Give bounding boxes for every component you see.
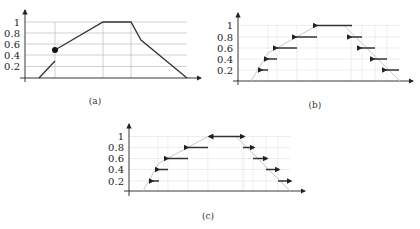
chart-a: 1 0.8 0.6 0.4 0.2 (a): [4, 10, 201, 106]
chart-c-grid: [129, 136, 290, 191]
chart-b-grid: [238, 25, 400, 81]
caption-c: (c): [202, 211, 214, 221]
chart-b: 1 0.8 0.6 0.4 0.2 (b): [217, 13, 413, 110]
figure: 1 0.8 0.6 0.4 0.2 (a): [0, 0, 420, 229]
y-tick-0.4: 0.4: [108, 164, 124, 175]
y-tick-0.2: 0.2: [108, 176, 124, 187]
y-tick-1: 1: [227, 20, 233, 31]
caption-b: (b): [309, 100, 322, 110]
y-tick-0.4: 0.4: [217, 54, 233, 65]
chart-a-axes: [20, 10, 201, 82]
chart-c-yticks: 1 0.8 0.6 0.4 0.2: [108, 131, 124, 187]
y-tick-0.6: 0.6: [108, 153, 124, 164]
chart-a-yticks: 1 0.8 0.6 0.4 0.2: [4, 17, 20, 73]
chart-b-trapezoid: [251, 26, 400, 82]
y-tick-0.2: 0.2: [217, 65, 233, 76]
y-tick-1: 1: [14, 17, 20, 28]
y-tick-0.4: 0.4: [4, 50, 20, 61]
y-tick-0.6: 0.6: [217, 43, 233, 54]
chart-b-yticks: 1 0.8 0.6 0.4 0.2: [217, 20, 233, 76]
y-tick-0.8: 0.8: [108, 142, 124, 153]
chart-c: 1 0.8 0.6 0.4 0.2 (c): [108, 124, 305, 221]
y-tick-0.8: 0.8: [4, 28, 20, 39]
chart-c-trapezoid: [143, 137, 290, 192]
y-tick-1: 1: [118, 131, 124, 142]
y-tick-0.6: 0.6: [4, 39, 20, 50]
y-tick-0.8: 0.8: [217, 32, 233, 43]
y-tick-0.2: 0.2: [4, 61, 20, 72]
caption-a: (a): [89, 96, 101, 106]
jump-point-dot: [52, 47, 58, 53]
chart-b-axes: [233, 13, 413, 85]
chart-a-grid: [25, 22, 187, 78]
chart-a-curve: [39, 22, 187, 78]
